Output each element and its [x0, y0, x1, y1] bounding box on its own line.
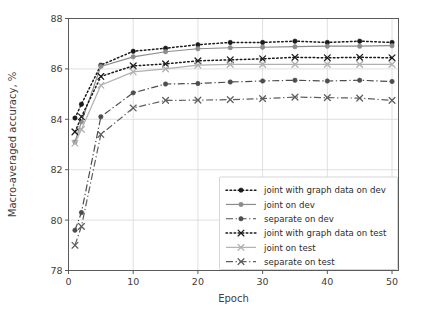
data-point-marker	[72, 129, 78, 135]
y-tick-label: 82	[50, 164, 62, 175]
series-3	[72, 54, 395, 134]
data-point-marker	[163, 82, 167, 86]
legend-label: joint on dev	[263, 200, 315, 210]
data-point-marker	[239, 217, 243, 221]
x-tick-label: 0	[65, 276, 71, 287]
series-line	[75, 41, 392, 118]
data-point-marker	[131, 49, 135, 53]
data-point-marker	[163, 50, 167, 54]
data-point-marker	[79, 224, 85, 230]
data-point-marker	[239, 202, 243, 206]
data-point-marker	[73, 116, 77, 120]
x-tick-label: 20	[192, 276, 204, 287]
data-point-marker	[98, 82, 104, 88]
data-point-marker	[72, 242, 78, 248]
y-axis-title: Macro-averaged accuracy, %	[7, 72, 18, 218]
x-tick-label: 30	[257, 276, 269, 287]
data-point-marker	[79, 210, 83, 214]
legend-label: joint with graph data on test	[263, 228, 387, 238]
data-point-marker	[325, 79, 329, 83]
series-1	[73, 44, 394, 145]
data-point-marker	[99, 115, 103, 119]
x-tick-label: 10	[127, 276, 139, 287]
data-point-marker	[357, 78, 361, 82]
x-axis-title: Epoch	[218, 293, 249, 304]
legend-label: joint on test	[263, 243, 316, 253]
data-point-marker	[239, 188, 243, 192]
y-tick-label: 88	[50, 13, 62, 24]
data-point-marker	[293, 39, 297, 43]
data-point-marker	[357, 39, 361, 43]
data-point-marker	[227, 97, 233, 103]
data-point-marker	[260, 40, 264, 44]
series-4	[72, 61, 395, 146]
y-tick-label: 78	[50, 265, 62, 276]
y-tick-label: 80	[50, 215, 62, 226]
axis-titles: EpochMacro-averaged accuracy, %	[7, 72, 249, 304]
series-0	[73, 39, 394, 120]
data-point-marker	[99, 64, 103, 68]
data-point-marker	[325, 44, 329, 48]
data-point-marker	[196, 81, 200, 85]
data-point-marker	[260, 45, 264, 49]
data-point-marker	[73, 228, 77, 232]
data-point-marker	[131, 55, 135, 59]
y-tick-label: 84	[50, 114, 62, 125]
data-point-marker	[228, 40, 232, 44]
data-point-marker	[228, 46, 232, 50]
data-point-marker	[228, 80, 232, 84]
data-point-marker	[293, 78, 297, 82]
y-tick-label: 86	[50, 63, 62, 74]
series-line	[75, 64, 392, 143]
data-point-marker	[260, 79, 264, 83]
data-point-marker	[98, 74, 104, 80]
legend-label: separate on dev	[264, 214, 334, 224]
chart-legend[interactable]: joint with graph data on devjoint on dev…	[220, 177, 398, 270]
data-point-marker	[357, 44, 361, 48]
series-line	[75, 57, 392, 132]
data-point-marker	[196, 47, 200, 51]
data-point-marker	[79, 102, 83, 106]
chart-figure: 78808284868801020304050 EpochMacro-avera…	[0, 0, 422, 318]
chart-canvas: 78808284868801020304050 EpochMacro-avera…	[0, 0, 422, 318]
x-tick-label: 50	[386, 276, 398, 287]
x-tick-label: 40	[321, 276, 333, 287]
data-point-marker	[293, 45, 297, 49]
data-point-marker	[390, 44, 394, 48]
legend-label: joint with graph data on dev	[263, 185, 386, 195]
data-point-marker	[131, 91, 135, 95]
legend-label: separate on test	[264, 257, 335, 267]
data-point-marker	[390, 79, 394, 83]
